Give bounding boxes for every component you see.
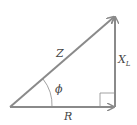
right-angle-marker — [100, 93, 115, 107]
label-xl: XL — [117, 53, 131, 68]
label-r: R — [63, 110, 72, 123]
impedance-triangle: Z XL ϕ R — [0, 0, 137, 125]
label-phi: ϕ — [55, 83, 63, 96]
angle-arc — [43, 79, 52, 107]
label-z: Z — [55, 47, 64, 60]
